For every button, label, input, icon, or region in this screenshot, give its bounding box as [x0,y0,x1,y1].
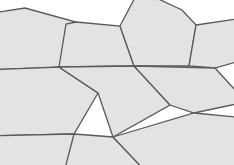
tiling-canvas [0,0,234,165]
pentagonal-tiling-figure [0,0,234,165]
tile-right-upper [189,18,234,68]
